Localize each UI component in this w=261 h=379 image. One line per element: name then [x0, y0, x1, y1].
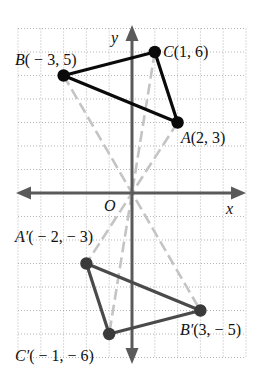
point-a-prime: [80, 257, 92, 269]
label-a: A(2, 3): [180, 129, 225, 147]
label-c-coords: (1, 6): [174, 43, 209, 61]
y-axis-label: y: [109, 29, 119, 47]
point-a: [171, 116, 183, 128]
label-c-prime-letter: C′: [15, 347, 30, 364]
origin-label: O: [104, 197, 116, 214]
triangle-abc: [64, 52, 178, 123]
point-b: [57, 69, 69, 81]
label-c: C(1, 6): [163, 43, 208, 61]
axes: [16, 25, 246, 364]
label-b-letter: B: [15, 51, 25, 68]
label-c-prime: C′( − 1, − 6): [15, 347, 94, 365]
label-b-prime: B′(3, − 5): [180, 321, 241, 339]
label-c-letter: C: [163, 43, 174, 60]
y-axis-up-arrow-icon: [126, 25, 139, 41]
label-a-prime-letter: A′: [14, 228, 29, 245]
label-b-prime-letter: B′: [180, 321, 194, 338]
label-b: B( − 3, 5): [15, 51, 76, 69]
label-a-prime-coords: ( − 2, − 3): [28, 228, 93, 246]
label-a-prime: A′( − 2, − 3): [14, 228, 93, 246]
label-c-prime-coords: ( − 1, − 6): [29, 347, 94, 365]
label-b-coords: ( − 3, 5): [25, 51, 77, 69]
coordinate-plane: y x O B( − 3, 5) C(1, 6) A(2, 3) A′( − 2…: [0, 0, 261, 379]
x-axis-right-arrow-icon: [231, 187, 246, 200]
y-axis-down-arrow-icon: [126, 348, 139, 364]
point-c-prime: [103, 328, 115, 340]
label-a-coords: (2, 3): [191, 129, 226, 147]
label-b-prime-coords: (3, − 5): [193, 321, 241, 339]
label-a-letter: A: [180, 129, 191, 146]
point-c: [149, 46, 161, 58]
point-b-prime: [194, 304, 206, 316]
x-axis-label: x: [225, 200, 233, 217]
